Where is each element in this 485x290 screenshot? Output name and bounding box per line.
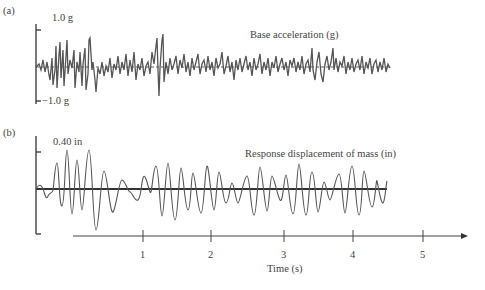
time-tick-1: 1 (140, 249, 145, 260)
panel-a-title: Base acceleration (g) (250, 29, 339, 40)
time-tick-3: 3 (281, 249, 286, 260)
acceleration-trace (36, 34, 390, 96)
time-axis (73, 230, 463, 242)
panel-b-max-label: 0.40 in (53, 136, 82, 147)
time-tick-4: 4 (350, 249, 355, 260)
displacement-trace (36, 150, 387, 230)
panel-b-label: (b) (3, 127, 15, 138)
panel-a-label: (a) (3, 5, 15, 16)
time-axis-arrow-icon (461, 233, 468, 239)
panel-a-max-label: 1.0 g (52, 12, 73, 23)
panel-b-title: Response displacement of mass (in) (245, 148, 396, 159)
time-tick-5: 5 (420, 249, 425, 260)
time-tick-2: 2 (208, 249, 213, 260)
panel-a-min-label: −1.0 g (42, 95, 69, 106)
time-axis-label: Time (s) (267, 263, 303, 274)
